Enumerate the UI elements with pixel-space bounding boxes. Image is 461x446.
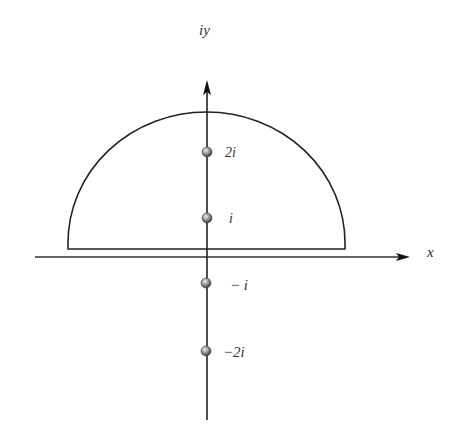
complex-plane-diagram: 2i i − i −2i iy x [0, 0, 461, 446]
real-axis [35, 253, 410, 261]
label-2i: 2i [225, 145, 236, 160]
point-minus-i: − i [201, 277, 248, 293]
imaginary-axis [203, 80, 211, 420]
label-minus-i: − i [230, 277, 248, 293]
imaginary-axis-label: iy [199, 22, 210, 38]
label-i: i [229, 211, 233, 226]
label-minus-2i: −2i [223, 344, 245, 360]
real-axis-label: x [426, 244, 434, 260]
